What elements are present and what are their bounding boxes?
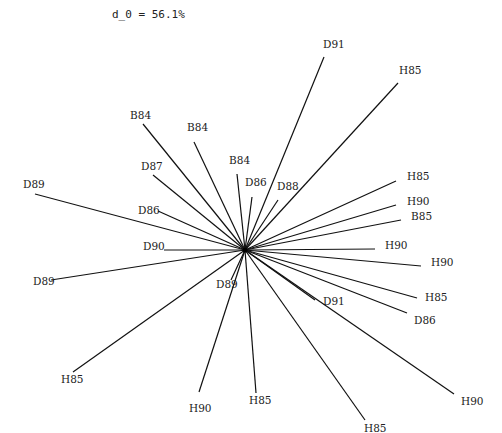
ray-label: B84 xyxy=(187,121,208,133)
ray-label: D91 xyxy=(323,295,345,307)
ray-line xyxy=(245,250,417,298)
ray-line xyxy=(245,250,421,266)
ray-label: H85 xyxy=(425,291,448,303)
ray-line xyxy=(245,57,324,250)
ray-line xyxy=(245,249,375,250)
ray-line xyxy=(245,250,256,393)
ray-line xyxy=(237,174,245,250)
ray-line xyxy=(35,194,245,250)
ray-label: D89 xyxy=(33,275,55,287)
ray-label: D87 xyxy=(141,160,163,172)
ray-label: H90 xyxy=(431,256,454,268)
ray-line xyxy=(245,205,396,250)
ray-label: D86 xyxy=(138,204,160,216)
ray-label: H90 xyxy=(189,402,212,414)
ray-line xyxy=(51,250,245,280)
ray-label: D88 xyxy=(277,180,299,192)
ray-label: H85 xyxy=(61,373,84,385)
ray-label: D90 xyxy=(143,240,165,252)
ray-label: H90 xyxy=(385,239,408,251)
ray-label: D86 xyxy=(245,176,267,188)
ray-label: B84 xyxy=(229,154,250,166)
ray-label: H85 xyxy=(364,422,387,433)
ray-label: H85 xyxy=(399,64,422,76)
ray-label: D86 xyxy=(414,314,436,326)
ray-line xyxy=(153,175,245,250)
ray-line xyxy=(73,250,245,372)
ray-label: D89 xyxy=(23,178,45,190)
ray-label: B84 xyxy=(130,109,151,121)
ray-label: H85 xyxy=(407,170,430,182)
center-hub xyxy=(243,248,248,253)
ray-label: B85 xyxy=(411,210,432,222)
ray-label: H90 xyxy=(407,195,430,207)
ray-label: H90 xyxy=(461,395,484,407)
ray-label: H85 xyxy=(249,394,272,406)
ray-label: D91 xyxy=(323,38,345,50)
ray-line xyxy=(199,250,245,392)
star-plot: D91H85B84B84B84D87D86D88D89H85H90B85D86D… xyxy=(0,0,502,433)
